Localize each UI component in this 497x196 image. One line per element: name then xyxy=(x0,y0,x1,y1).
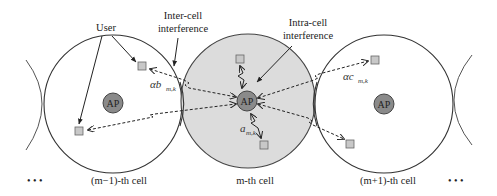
user-right-bottom xyxy=(346,140,354,148)
inter-cell-label-1: Inter-cell xyxy=(164,10,202,21)
intra-cell-label-1: Intra-cell xyxy=(289,17,328,28)
user-right-top xyxy=(371,56,379,64)
user-middle-bottom xyxy=(260,141,268,149)
ap-middle: AP xyxy=(237,91,257,111)
svg-text:AP: AP xyxy=(107,98,120,109)
interference-diagram: AP AP AP User Inter-cell interference In… xyxy=(0,0,497,196)
user-middle-top xyxy=(236,55,244,63)
cell-label-m-minus-1: (m−1)-th cell xyxy=(91,175,147,187)
svg-text:αb: αb xyxy=(150,78,162,90)
ellipsis-right: • • • xyxy=(448,175,464,186)
user-left-bottom xyxy=(75,127,83,135)
intra-cell-label-2: interference xyxy=(283,30,333,41)
svg-text:m,k: m,k xyxy=(358,77,369,85)
svg-text:AP: AP xyxy=(241,96,254,107)
cell-label-m: m-th cell xyxy=(236,175,274,186)
svg-text:m,k: m,k xyxy=(246,129,257,137)
svg-text:AP: AP xyxy=(378,99,391,110)
far-left-cell-arc xyxy=(26,60,42,150)
ap-right: AP xyxy=(374,94,394,114)
ellipsis-left: • • • xyxy=(27,175,43,186)
ap-left: AP xyxy=(103,93,123,113)
user-left-top xyxy=(138,62,146,70)
svg-text:αc: αc xyxy=(343,70,354,82)
inter-cell-pointer xyxy=(174,38,178,66)
cell-label-m-plus-1: (m+1)-th cell xyxy=(360,175,416,187)
inter-cell-label-2: interference xyxy=(158,23,208,34)
svg-text:m,k: m,k xyxy=(166,85,177,93)
user-label: User xyxy=(96,22,116,33)
far-right-cell-arc xyxy=(454,55,472,145)
